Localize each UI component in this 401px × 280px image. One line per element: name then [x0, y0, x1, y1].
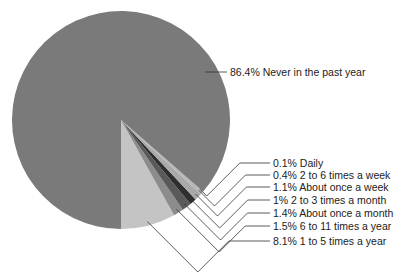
label-6-11-year: 1.5% 6 to 11 times a year [273, 220, 392, 232]
label-daily: 0.1% Daily [273, 157, 324, 169]
label-never: 86.4% Never in the past year [230, 66, 366, 78]
label-once-week: 1.1% About once a week [273, 181, 389, 193]
label-once-month: 1.4% About once a month [273, 207, 393, 219]
label-2-3-month: 1% 2 to 3 times a month [273, 194, 386, 206]
pie-chart: 86.4% Never in the past year 0.1% Daily … [0, 0, 401, 280]
slice-labels: 86.4% Never in the past year 0.1% Daily … [230, 66, 393, 247]
label-1-5-year: 8.1% 1 to 5 times a year [273, 235, 387, 247]
leader-7 [147, 222, 270, 272]
leader-5 [184, 204, 270, 240]
leader-6 [176, 209, 270, 252]
leader-3 [196, 187, 271, 216]
label-2-6-week: 0.4% 2 to 6 times a week [273, 169, 391, 181]
